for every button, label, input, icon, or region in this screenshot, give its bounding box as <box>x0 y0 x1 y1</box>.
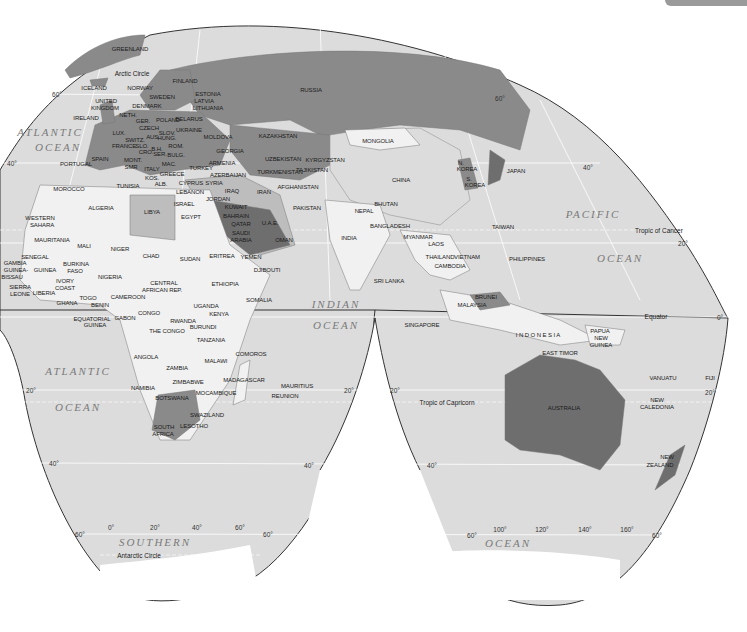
ocean-label: ATLANTIC <box>45 365 111 377</box>
country-label: KOREA <box>457 166 478 173</box>
country-label: CENTRAL <box>150 280 177 287</box>
graticule-label: 140° <box>578 526 591 533</box>
country-label: AFRICAN REP. <box>142 287 182 294</box>
graticule-label: 40° <box>49 460 59 467</box>
country-label: ESTONIA <box>195 91 221 98</box>
country-label: ERITREA <box>209 253 234 260</box>
graticule-label: 60° <box>495 95 505 102</box>
graticule-label: 60° <box>52 91 62 98</box>
country-label: JORDAN <box>206 196 230 203</box>
country-label: THAILAND <box>426 254 455 261</box>
country-label: GER. <box>136 118 150 125</box>
country-label: NORWAY <box>127 85 153 92</box>
graticule-label: 60° <box>652 532 662 539</box>
reference-line-label: Tropic of Cancer <box>635 227 683 234</box>
country-label: UKRAINE <box>176 127 202 134</box>
country-label: I N D O N E S I A <box>516 332 560 339</box>
world-map: ATLANTICOCEANPACIFICOCEANINDIANOCEANATLA… <box>0 0 747 632</box>
country-label: ZIMBABWE <box>172 379 203 386</box>
country-label: HUNG. <box>158 135 177 142</box>
country-label: COMOROS <box>236 351 267 358</box>
graticule-label: 60° <box>467 532 477 539</box>
country-label: AUSTRALIA <box>548 405 580 412</box>
country-label: NEW <box>660 454 674 461</box>
country-label: BAHRAIN <box>223 213 249 220</box>
country-label: VIETNAM <box>454 254 480 261</box>
country-label: TAIWAN <box>492 224 514 231</box>
graticule-label: 0° <box>717 314 723 321</box>
country-label: NIGERIA <box>98 274 122 281</box>
country-label: CHINA <box>392 177 410 184</box>
country-label: BENIN <box>91 302 109 309</box>
country-label: CAMEROON <box>111 294 146 301</box>
country-label: TANZANIA <box>197 337 225 344</box>
country-label: GREENLAND <box>112 46 148 53</box>
country-label: TAJIKISTAN <box>296 167 328 174</box>
ocean-label: OCEAN <box>313 319 359 331</box>
country-label: NETH. <box>119 112 137 119</box>
country-label: ARABIA <box>230 237 251 244</box>
ocean-label: OCEAN <box>597 252 643 264</box>
graticule-label: 20° <box>344 387 354 394</box>
country-label: MAURITIUS <box>281 383 313 390</box>
country-label: ZEALAND <box>647 462 674 469</box>
country-label: MONGOLIA <box>362 138 394 145</box>
country-label: NIGER <box>111 246 130 253</box>
graticule-label: 120° <box>535 526 548 533</box>
graticule-label: 160° <box>620 526 633 533</box>
country-label: NEW <box>650 397 664 404</box>
country-label: ALGERIA <box>88 205 113 212</box>
country-label: SAHARA <box>30 222 54 229</box>
country-label: BELARUS <box>175 116 202 123</box>
country-label: LEBANON <box>176 189 204 196</box>
country-label: BULG. <box>167 152 185 159</box>
country-label: TOGO <box>79 295 96 302</box>
country-label: GAMBIA <box>4 260 27 267</box>
country-label: SIERRA <box>9 284 31 291</box>
country-label: MOLDOVA <box>204 134 233 141</box>
country-label: SAUDI <box>232 230 250 237</box>
country-label: PAPUA <box>590 328 609 335</box>
country-label: ANGOLA <box>134 354 158 361</box>
country-label: PHILIPPINES <box>509 256 545 263</box>
country-label: IRELAND <box>73 115 98 122</box>
country-label: TURKEY <box>189 165 213 172</box>
country-label: UNITED <box>95 98 117 105</box>
graticule-label: 40° <box>427 462 437 469</box>
country-label: MALAWI <box>205 358 228 365</box>
country-label: ZAMBIA <box>166 365 188 372</box>
country-label: SWAZILAND <box>190 412 224 419</box>
corner-tab <box>665 0 747 6</box>
country-label: GUINEA- <box>4 267 28 274</box>
graticule-label: 40° <box>7 160 17 167</box>
country-label: MADAGASCAR <box>223 377 265 384</box>
country-label: SWEDEN <box>149 94 175 101</box>
country-label: GABON <box>114 315 135 322</box>
country-label: LIBERIA <box>33 290 55 297</box>
country-label: EGYPT <box>181 214 201 221</box>
country-label: MOROCCO <box>53 186 84 193</box>
country-label: OMAN <box>275 237 293 244</box>
country-label: SPAIN <box>91 156 108 163</box>
country-label: MYANMAR <box>403 234 433 241</box>
graticule-label: 100° <box>493 526 506 533</box>
country-label: IVORY <box>56 278 74 285</box>
country-label: VANUATU <box>649 375 676 382</box>
country-label: AZERBAIJAN <box>210 172 246 179</box>
country-label: THE CONGO <box>149 328 184 335</box>
reference-line-label: Arctic Circle <box>115 70 150 77</box>
country-label: ROM. <box>168 143 183 150</box>
country-label: LITHUANIA <box>193 105 223 112</box>
country-label: ALB. <box>155 181 168 188</box>
country-label: MAURITANIA <box>34 237 70 244</box>
country-label: FASO <box>67 268 83 275</box>
country-label: CYPRUS <box>179 180 203 187</box>
graticule-label: 0° <box>108 524 114 531</box>
country-label: GUINEA <box>84 322 106 329</box>
country-label: U.A.E. <box>262 220 279 227</box>
country-label: ISRAEL <box>174 201 195 208</box>
country-label: GREECE <box>160 171 185 178</box>
country-label: WESTERN <box>25 215 54 222</box>
country-label: DJIBOUTI <box>254 267 281 274</box>
graticule-label: 60° <box>235 524 245 531</box>
